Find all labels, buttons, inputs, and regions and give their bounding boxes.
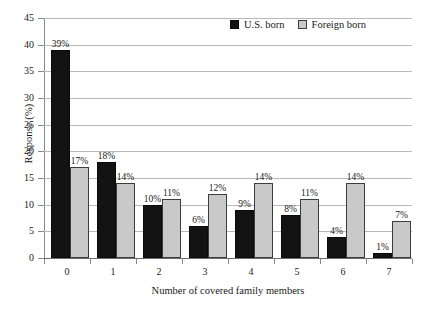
legend-label: Foreign born xyxy=(312,19,367,30)
legend-item-foreign-born: Foreign born xyxy=(298,19,367,30)
x-tick-label-4: 4 xyxy=(239,266,263,277)
x-tick-label-0: 0 xyxy=(55,266,79,277)
y-tick-label-5: 5 xyxy=(0,226,34,236)
x-tick-0 xyxy=(44,259,45,264)
x-tick-6 xyxy=(320,259,321,264)
bar-label-foreign-born-4: 14% xyxy=(244,172,284,182)
bar-us-born-7 xyxy=(373,253,392,258)
bar-chart: Response (%) 051015202530354045 39%17%18… xyxy=(0,0,425,309)
x-tick-2 xyxy=(136,259,137,264)
y-tick-label-40: 40 xyxy=(0,40,34,50)
legend-label: U.S. born xyxy=(244,19,285,30)
y-tick-label-25: 25 xyxy=(0,120,34,130)
bar-label-foreign-born-3: 12% xyxy=(198,183,238,193)
bar-foreign-born-7 xyxy=(392,221,411,258)
x-axis-title: Number of covered family members xyxy=(44,285,412,296)
bar-label-us-born-0: 39% xyxy=(41,39,81,49)
bar-label-us-born-4: 9% xyxy=(225,199,265,209)
x-tick-7 xyxy=(366,259,367,264)
bar-foreign-born-0 xyxy=(70,167,89,258)
bar-label-us-born-6: 4% xyxy=(317,226,357,236)
bar-us-born-4 xyxy=(235,210,254,258)
x-tick-end xyxy=(412,259,413,264)
y-axis-title: Response (%) xyxy=(23,54,34,214)
bar-label-us-born-1: 18% xyxy=(87,151,127,161)
y-tick-label-45: 45 xyxy=(0,13,34,23)
bar-label-us-born-7: 1% xyxy=(363,242,403,252)
x-tick-label-1: 1 xyxy=(101,266,125,277)
y-tick-label-0: 0 xyxy=(0,253,34,263)
bar-label-foreign-born-1: 14% xyxy=(106,172,146,182)
bar-label-foreign-born-6: 14% xyxy=(336,172,376,182)
bar-foreign-born-4 xyxy=(254,183,273,258)
x-tick-5 xyxy=(274,259,275,264)
x-tick-label-3: 3 xyxy=(193,266,217,277)
legend-swatch-icon-us xyxy=(230,20,239,29)
bar-us-born-0 xyxy=(51,50,70,258)
bar-us-born-2 xyxy=(143,205,162,258)
y-tick-label-15: 15 xyxy=(0,173,34,183)
y-tick-label-20: 20 xyxy=(0,146,34,156)
bar-label-foreign-born-7: 7% xyxy=(382,210,422,220)
bar-us-born-3 xyxy=(189,226,208,258)
x-tick-3 xyxy=(182,259,183,264)
bar-us-born-5 xyxy=(281,215,300,258)
x-tick-label-5: 5 xyxy=(285,266,309,277)
y-tick-label-35: 35 xyxy=(0,66,34,76)
y-tick-label-10: 10 xyxy=(0,200,34,210)
chart-legend: U.S. bornForeign born xyxy=(230,19,366,30)
bar-label-foreign-born-2: 11% xyxy=(152,188,192,198)
bar-us-born-6 xyxy=(327,237,346,258)
x-tick-label-6: 6 xyxy=(331,266,355,277)
x-tick-4 xyxy=(228,259,229,264)
legend-item-us-born: U.S. born xyxy=(230,19,285,30)
plot-area xyxy=(44,18,412,258)
x-tick-label-7: 7 xyxy=(377,266,401,277)
bar-foreign-born-2 xyxy=(162,199,181,258)
x-tick-1 xyxy=(90,259,91,264)
y-tick-label-30: 30 xyxy=(0,93,34,103)
x-tick-label-2: 2 xyxy=(147,266,171,277)
legend-swatch-icon-foreign xyxy=(298,20,307,29)
bar-label-foreign-born-5: 11% xyxy=(290,188,330,198)
bar-label-us-born-3: 6% xyxy=(179,215,219,225)
bar-label-us-born-5: 8% xyxy=(271,204,311,214)
